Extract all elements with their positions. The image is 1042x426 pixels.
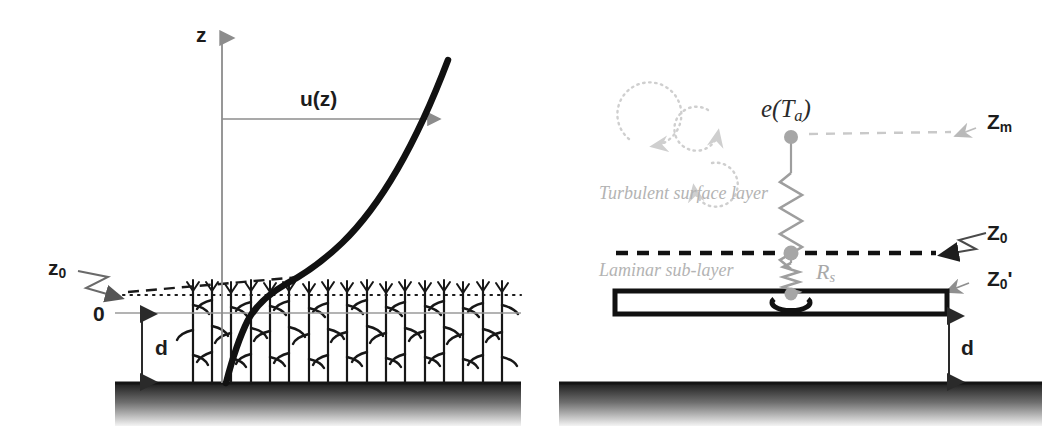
measurement-height-base: Z [987,110,1000,133]
eddy-icon-1 [617,82,681,146]
zm-dashed-line [809,132,951,134]
eddy-icon-2 [674,107,718,151]
scalar-roughness-length-label: Z0' [987,268,1013,292]
turbulent-surface-layer-label: Turbulent surface layer [599,184,768,202]
node-leaf [785,288,798,301]
zero-reference-label: 0 [93,303,105,324]
air-vapour-pressure-close: ) [803,95,811,122]
displacement-height-label: d [961,337,974,358]
node-air [784,130,798,144]
zm-pointer-arrow [955,128,976,136]
stomatal-resistance-sub: s [829,269,835,285]
stomatal-resistance-base: R [816,259,829,284]
roughness-length-label-sub: 0 [59,265,67,281]
u-of-z-label: u(z) [300,88,337,109]
ground-soil [115,383,521,426]
displacement-height-label: d [155,337,168,358]
roughness-length-label-base: z [48,256,59,279]
measurement-height-label: Zm [987,111,1012,135]
measurement-height-sub: m [1000,119,1012,135]
laminar-sub-layer-label: Laminar sub-layer [599,261,734,279]
left-panel-graphics [0,0,521,426]
roughness-length-base: Z [987,221,1000,244]
roughness-length-label: Z0 [987,222,1008,246]
stomatal-resistance-label: Rs [816,261,835,285]
air-vapour-pressure-sub: a [794,106,802,125]
z0-zigzag-pointer [78,271,121,298]
z0-zigzag-pointer [941,233,986,255]
air-vapour-pressure-label: e(Ta) [761,96,811,124]
ground-soil [559,383,1042,426]
scalar-roughness-base: Z [987,267,1000,290]
z-axis-label: z [196,24,207,45]
leaf-plate [615,291,947,314]
scalar-roughness-prime: ' [1008,267,1013,290]
right-panel-graphics [521,0,1042,426]
right-panel-resistance-network: e(Ta) Turbulent surface layer Laminar su… [521,0,1042,426]
node-roughness [784,246,799,261]
air-vapour-pressure-base: e(T [761,95,794,122]
roughness-length-sub: 0 [1000,230,1008,246]
resistance-network [780,141,802,297]
left-panel-wind-profile: z u(z) z0 0 d [0,0,521,426]
scalar-roughness-sub: 0 [1000,276,1008,292]
figure-canvas: z u(z) z0 0 d [0,0,1042,426]
roughness-length-label: z0 [48,257,66,281]
